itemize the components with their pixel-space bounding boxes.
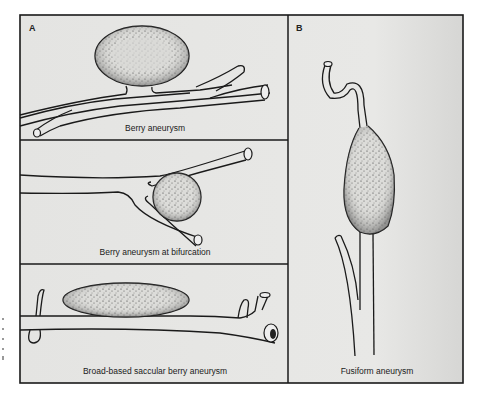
caption-berry: Berry aneurysm xyxy=(125,123,185,133)
panel-label-b: B xyxy=(296,23,303,33)
page-edge-marks xyxy=(2,318,4,360)
figure-svg: Berry aneurysm Berry aneurysm at bifurca… xyxy=(0,0,479,403)
caption-fusiform: Fusiform aneurysm xyxy=(341,366,414,376)
figure-frame xyxy=(20,15,463,383)
aneurysm-figure: Berry aneurysm Berry aneurysm at bifurca… xyxy=(0,0,479,403)
caption-broad-based: Broad-based saccular berry aneurysm xyxy=(83,366,227,376)
caption-bifurcation: Berry aneurysm at bifurcation xyxy=(99,247,210,257)
panel-label-a: A xyxy=(29,23,36,33)
